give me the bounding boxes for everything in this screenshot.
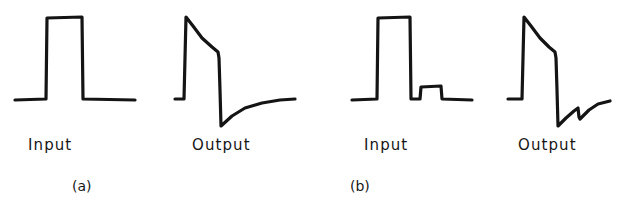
trace-panel-b-input — [352, 17, 472, 100]
label-panel-b-input: Input — [364, 138, 408, 153]
waveform-figure: Input Output Input Output (a) (b) — [0, 0, 620, 204]
trace-panel-b-output — [508, 17, 610, 126]
trace-panel-a-output — [175, 17, 295, 126]
label-panel-a-input: Input — [28, 138, 72, 153]
label-panel-b-output: Output — [518, 138, 577, 153]
caption-panel-a: (a) — [72, 179, 92, 193]
caption-panel-b: (b) — [350, 179, 370, 193]
waveform-canvas — [0, 0, 620, 204]
trace-panel-a-input — [15, 17, 135, 100]
label-panel-a-output: Output — [192, 138, 251, 153]
